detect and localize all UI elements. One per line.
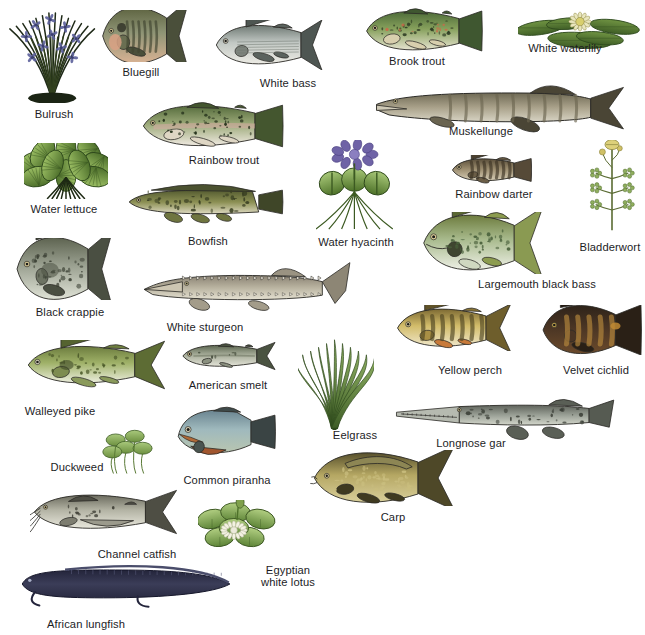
fish-illustration-velvet-cichlid: [540, 305, 642, 355]
label-eelgrass: Eelgrass: [333, 429, 377, 441]
organism-water-lettuce: [24, 143, 108, 199]
organism-water-hyacinth: [316, 140, 396, 230]
label-white-sturgeon: White sturgeon: [167, 321, 244, 333]
fish-illustration-rainbow-trout: [139, 100, 284, 152]
plant-illustration-bulrush: [8, 8, 100, 103]
label-largemouth-bass: Largemouth black bass: [478, 278, 596, 290]
label-white-bass: White bass: [260, 77, 316, 89]
organism-egyptian-lotus: [198, 500, 276, 556]
label-walleyed-pike: Walleyed pike: [25, 405, 96, 417]
label-bladderwort: Bladderwort: [580, 241, 641, 253]
organism-walleyed-pike: [24, 340, 166, 390]
label-longnose-gar: Longnose gar: [436, 437, 506, 449]
organism-american-smelt: [180, 340, 276, 372]
organism-brook-trout: [363, 6, 483, 56]
organism-white-bass: [213, 20, 323, 70]
label-brook-trout: Brook trout: [389, 55, 445, 67]
label-american-smelt: American smelt: [189, 379, 268, 391]
label-water-hyacinth: Water hyacinth: [318, 236, 394, 248]
organism-bladderwort: [588, 140, 636, 232]
organism-rainbow-trout: [139, 100, 284, 152]
organism-bowfish: [126, 178, 284, 226]
fish-illustration-channel-catfish: [30, 488, 178, 536]
organism-largemouth-bass: [420, 212, 544, 274]
label-muskellunge: Muskellunge: [449, 125, 513, 137]
label-african-lungfish: African lungfish: [47, 618, 125, 630]
fish-illustration-black-crappie: [14, 238, 114, 300]
label-bulrush: Bulrush: [35, 108, 74, 120]
label-duckweed: Duckweed: [50, 461, 103, 473]
fish-illustration-yellow-perch: [394, 305, 512, 351]
plant-illustration-water-hyacinth: [316, 140, 396, 230]
organism-bulrush: [8, 8, 100, 103]
plant-illustration-egyptian-lotus: [198, 500, 276, 556]
organism-eelgrass: [298, 336, 374, 430]
organism-duckweed: [100, 428, 156, 474]
label-bluegill: Bluegill: [123, 66, 160, 78]
organism-black-crappie: [14, 238, 114, 300]
fish-illustration-white-bass: [213, 20, 323, 70]
organism-common-piranha: [172, 404, 276, 462]
fish-illustration-american-smelt: [180, 340, 276, 372]
plant-illustration-water-lettuce: [24, 143, 108, 199]
fish-illustration-rainbow-darter: [450, 155, 532, 185]
organism-yellow-perch: [394, 305, 512, 351]
label-egyptian-lotus: Egyptian white lotus: [261, 564, 315, 589]
fish-illustration-african-lungfish: [18, 558, 232, 610]
plant-illustration-duckweed: [100, 428, 156, 474]
organism-white-sturgeon: [140, 258, 352, 316]
label-velvet-cichlid: Velvet cichlid: [563, 364, 629, 376]
label-white-waterlily: White waterlily: [528, 42, 602, 54]
label-bowfish: Bowfish: [188, 235, 228, 247]
organism-rainbow-darter: [450, 155, 532, 185]
fish-illustration-common-piranha: [172, 404, 276, 462]
label-black-crappie: Black crappie: [36, 306, 104, 318]
label-water-lettuce: Water lettuce: [31, 203, 98, 215]
plant-illustration-eelgrass: [298, 336, 374, 430]
organism-carp: [310, 450, 456, 506]
organism-bluegill: [100, 10, 190, 62]
fish-illustration-bowfish: [126, 178, 284, 226]
label-rainbow-darter: Rainbow darter: [455, 188, 532, 200]
label-rainbow-trout: Rainbow trout: [189, 154, 259, 166]
label-common-piranha: Common piranha: [183, 474, 270, 486]
fish-illustration-carp: [310, 450, 456, 506]
fish-illustration-longnose-gar: [392, 388, 616, 440]
organism-velvet-cichlid: [540, 305, 642, 355]
fish-illustration-brook-trout: [363, 6, 483, 56]
label-yellow-perch: Yellow perch: [438, 364, 502, 376]
fish-illustration-bluegill: [100, 10, 190, 62]
organism-channel-catfish: [30, 488, 178, 536]
freshwater-life-plate: BulrushBluegillWhite bassBrook troutWhit…: [0, 0, 645, 635]
organism-longnose-gar: [392, 388, 616, 440]
fish-illustration-largemouth-bass: [420, 212, 544, 274]
fish-illustration-walleyed-pike: [24, 340, 166, 390]
fish-illustration-white-sturgeon: [140, 258, 352, 316]
plant-illustration-bladderwort: [588, 140, 636, 232]
organism-african-lungfish: [18, 558, 232, 610]
label-carp: Carp: [381, 511, 406, 523]
